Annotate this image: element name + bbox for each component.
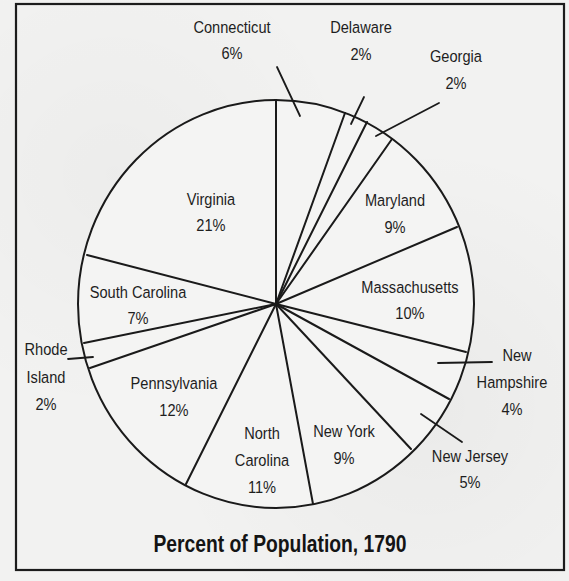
label-new-hampshire-line1: New [502,346,532,364]
label-massachusetts-name: Massachusetts [361,278,459,296]
label-new-york-name: New York [313,422,375,440]
label-virginia-name: Virginia [187,190,236,208]
leader-new-hampshire [438,362,492,363]
label-georgia-pct: 2% [445,74,466,92]
chart-title-group: Percent of Population, 1790 [153,531,406,557]
label-delaware-pct: 2% [350,45,371,63]
label-pennsylvania-name: Pennsylvania [131,374,218,392]
label-new-hampshire-pct: 4% [501,400,522,418]
label-north-carolina-line2: Carolina [235,451,290,469]
pie-chart-svg: Connecticut 6% Delaware 2% Georgia 2% Vi… [0,0,569,581]
label-new-jersey-pct: 5% [459,473,480,491]
label-massachusetts-pct: 10% [395,304,424,322]
chart-figure: Connecticut 6% Delaware 2% Georgia 2% Vi… [0,0,569,581]
label-south-carolina-pct: 7% [127,309,148,327]
label-north-carolina-line1: North [244,424,280,442]
label-georgia-name: Georgia [430,47,482,65]
label-rhode-island-line1: Rhode [24,340,67,358]
label-north-carolina-pct: 11% [248,478,276,496]
label-south-carolina-name: South Carolina [90,283,187,301]
label-pennsylvania-pct: 12% [159,401,188,419]
label-rhode-island-line2: Island [27,368,66,386]
label-new-hampshire-line2: Hampshire [477,373,548,391]
label-new-york-pct: 9% [333,449,354,467]
label-new-jersey-name: New Jersey [432,447,508,465]
label-maryland-name: Maryland [365,191,425,209]
label-maryland-pct: 9% [384,218,405,236]
label-connecticut-name: Connecticut [193,18,271,36]
leader-georgia [376,103,439,136]
label-delaware-name: Delaware [330,18,392,36]
label-virginia-pct: 21% [196,216,225,234]
chart-title: Percent of Population, 1790 [153,531,406,557]
label-connecticut-pct: 6% [221,44,242,62]
label-rhode-island-pct: 2% [35,395,56,413]
